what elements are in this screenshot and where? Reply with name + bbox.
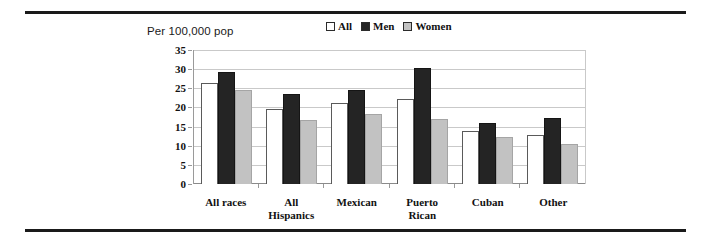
legend-swatch-icon [403, 22, 412, 31]
legend-swatch-icon [361, 22, 370, 31]
y-tick-mark [188, 69, 192, 70]
y-tick-mark [188, 88, 192, 89]
x-category-label: Other [521, 196, 587, 222]
bar-all [201, 83, 218, 184]
x-category-label: Cuban [455, 196, 521, 222]
x-category-label-line: All races [193, 196, 259, 209]
x-category-label: AllHispanics [259, 196, 325, 222]
y-tick-label: 20 [175, 101, 186, 113]
bar-chart-figure: Per 100,000 pop AllMenWomen 051015202530… [0, 0, 711, 246]
y-tick-mark [188, 146, 192, 147]
legend-label: Women [415, 21, 451, 32]
bar-women [235, 90, 252, 184]
bar-men [218, 72, 235, 184]
bar-all [266, 109, 283, 184]
legend-item-men: Men [361, 21, 394, 32]
y-tick-label: 10 [175, 140, 186, 152]
bar-women [561, 144, 578, 184]
x-tick-mark [389, 184, 390, 188]
y-tick-mark [188, 50, 192, 51]
y-tick-mark [188, 107, 192, 108]
y-tick-label: 30 [175, 63, 186, 75]
x-category-label-line: Rican [390, 209, 456, 222]
bar-group [455, 50, 520, 184]
y-tick-label: 15 [175, 121, 186, 133]
bar-all [527, 135, 544, 184]
x-tick-mark [258, 184, 259, 188]
x-axis-labels: All racesAllHispanicsMexicanPuertoRicanC… [193, 196, 586, 222]
bar-women [496, 137, 513, 184]
chart-legend: AllMenWomen [326, 21, 452, 32]
y-tick-label: 35 [175, 44, 186, 56]
bar-group [259, 50, 324, 184]
bar-groups [194, 50, 585, 184]
bar-women [431, 119, 448, 184]
x-category-label-line: Mexican [324, 196, 390, 209]
bar-men [283, 94, 300, 184]
legend-swatch-icon [326, 22, 335, 31]
bar-all [397, 99, 414, 184]
legend-item-all: All [326, 21, 352, 32]
x-category-label-line: Other [521, 196, 587, 209]
y-axis-labels: 05101520253035 [160, 50, 186, 184]
x-tick-mark [323, 184, 324, 188]
bar-men [544, 118, 561, 184]
x-category-label: PuertoRican [390, 196, 456, 222]
plot-area [193, 50, 586, 184]
y-axis-unit-label: Per 100,000 pop [147, 25, 234, 37]
y-tick-mark [188, 184, 192, 185]
y-tick-mark [188, 127, 192, 128]
y-tick-label: 25 [175, 82, 186, 94]
bar-men [479, 123, 496, 184]
bar-men [348, 90, 365, 184]
bar-all [331, 103, 348, 184]
bar-all [462, 131, 479, 184]
x-category-label-line: Cuban [455, 196, 521, 209]
x-category-label-line: Puerto [390, 196, 456, 209]
bar-group [520, 50, 585, 184]
y-tick-label: 0 [181, 178, 187, 190]
bar-group [390, 50, 455, 184]
bar-women [300, 120, 317, 184]
bar-group [324, 50, 389, 184]
bar-men [414, 68, 431, 184]
x-tick-mark [519, 184, 520, 188]
bar-women [365, 114, 382, 184]
plot-wrapper: 05101520253035 [160, 50, 586, 196]
bar-group [194, 50, 259, 184]
x-category-label: All races [193, 196, 259, 222]
x-category-label-line: All [259, 196, 325, 209]
top-divider-rule [25, 11, 686, 14]
y-tick-label: 5 [181, 159, 187, 171]
legend-label: Men [373, 21, 394, 32]
bottom-divider-rule [25, 229, 686, 232]
x-category-label: Mexican [324, 196, 390, 222]
x-category-label-line: Hispanics [259, 209, 325, 222]
legend-label: All [338, 21, 352, 32]
x-tick-mark [454, 184, 455, 188]
legend-item-women: Women [403, 21, 451, 32]
y-tick-mark [188, 165, 192, 166]
